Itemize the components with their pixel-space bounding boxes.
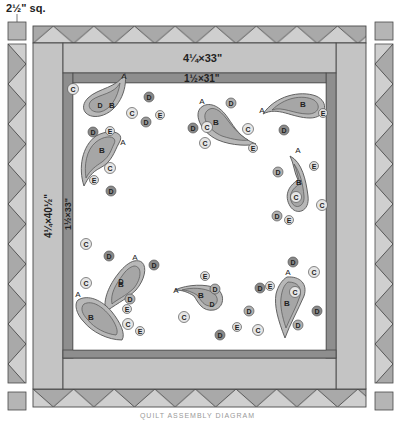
svg-text:C: C <box>107 165 112 172</box>
left-pieced-strip <box>8 44 26 383</box>
right-pieced-strip <box>375 44 393 383</box>
svg-text:E: E <box>92 177 97 184</box>
svg-text:D: D <box>212 286 217 293</box>
svg-text:D: D <box>146 94 151 101</box>
svg-text:A: A <box>259 106 265 115</box>
side-outer-border-label: 4¼×40½" <box>43 194 54 238</box>
svg-text:D: D <box>281 127 286 134</box>
svg-text:B: B <box>213 118 219 127</box>
svg-text:D: D <box>151 262 156 269</box>
svg-text:E: E <box>125 306 130 313</box>
svg-text:D: D <box>209 301 214 308</box>
svg-text:B: B <box>284 299 290 308</box>
svg-text:C: C <box>292 289 297 296</box>
top-pieced-border <box>33 26 366 43</box>
left-loose-pieces <box>8 22 26 410</box>
svg-text:A: A <box>75 290 81 299</box>
svg-text:C: C <box>70 86 75 93</box>
svg-text:C: C <box>202 140 207 147</box>
svg-text:C: C <box>83 241 88 248</box>
svg-text:D: D <box>106 253 111 260</box>
svg-text:E: E <box>158 112 163 119</box>
svg-text:A: A <box>285 268 291 277</box>
svg-text:C: C <box>255 327 260 334</box>
svg-text:D: D <box>217 332 222 339</box>
svg-text:D: D <box>90 129 95 136</box>
svg-text:C: C <box>125 321 130 328</box>
svg-text:A: A <box>295 146 301 155</box>
svg-text:C: C <box>181 314 186 321</box>
svg-text:E: E <box>203 273 208 280</box>
corner-square-bottom-right <box>375 392 393 410</box>
svg-text:C: C <box>204 124 209 131</box>
right-inner-border <box>326 73 336 358</box>
corner-square-top-left <box>8 22 26 40</box>
svg-text:E: E <box>312 163 317 170</box>
svg-text:D: D <box>246 308 251 315</box>
svg-text:B: B <box>296 178 302 187</box>
svg-text:C: C <box>311 269 316 276</box>
svg-text:D: D <box>97 102 102 109</box>
bottom-inner-border <box>63 350 336 358</box>
corner-square-bottom-left <box>8 392 26 410</box>
svg-text:C: C <box>319 202 324 209</box>
svg-text:D: D <box>257 285 262 292</box>
svg-text:B: B <box>118 280 124 289</box>
svg-text:D: D <box>275 169 280 176</box>
svg-text:C: C <box>83 280 88 287</box>
svg-text:B: B <box>198 291 204 300</box>
right-loose-pieces <box>375 22 393 410</box>
svg-text:B: B <box>88 313 94 322</box>
svg-text:E: E <box>268 283 273 290</box>
svg-text:D: D <box>127 296 132 303</box>
svg-text:C: C <box>245 126 250 133</box>
svg-text:D: D <box>290 259 295 266</box>
svg-text:A: A <box>199 97 205 106</box>
corner-square-top-right <box>375 22 393 40</box>
bottom-outer-border <box>63 358 336 389</box>
svg-text:A: A <box>173 286 179 295</box>
svg-text:D: D <box>190 125 195 132</box>
svg-text:E: E <box>138 328 143 335</box>
svg-text:D: D <box>228 100 233 107</box>
svg-text:B: B <box>109 101 115 110</box>
diagram-caption: QUILT ASSEMBLY DIAGRAM <box>0 412 395 421</box>
svg-text:D: D <box>314 308 319 315</box>
svg-text:B: B <box>99 146 105 155</box>
svg-text:D: D <box>108 188 113 195</box>
right-outer-border <box>336 43 366 389</box>
svg-text:E: E <box>235 324 240 331</box>
side-inner-border-label: 1½×33" <box>63 198 73 230</box>
svg-text:C: C <box>129 110 134 117</box>
top-inner-border-label: 1½×31" <box>184 73 220 84</box>
top-outer-border-label: 4¼×33" <box>183 52 222 64</box>
svg-text:E: E <box>287 217 292 224</box>
svg-text:E: E <box>321 110 326 117</box>
svg-text:A: A <box>121 72 127 81</box>
svg-text:E: E <box>251 145 256 152</box>
svg-text:A: A <box>120 138 126 147</box>
svg-text:D: D <box>274 213 279 220</box>
svg-text:D: D <box>295 322 300 329</box>
svg-text:C: C <box>293 194 298 201</box>
svg-text:A: A <box>132 253 138 262</box>
svg-text:B: B <box>300 100 306 109</box>
bottom-pieced-border <box>33 389 366 407</box>
svg-text:D: D <box>143 119 148 126</box>
svg-text:E: E <box>108 128 113 135</box>
